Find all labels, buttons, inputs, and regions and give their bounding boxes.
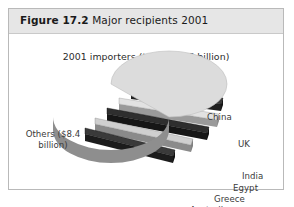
page-title: Figure 17.2 Major recipients 2001 [20,14,208,26]
pie-label-australia: Australia [190,205,228,207]
pie-chart-svg [9,34,283,189]
pie-label-others-line1: Others ($8.4 [26,129,81,139]
figure-panel: Figure 17.2 Major recipients 2001 2001 i… [0,0,294,207]
figure-frame: Figure 17.2 Major recipients 2001 2001 i… [8,8,284,190]
pie-label-china: China [207,112,232,122]
pie-label-india: India [242,171,263,181]
figure-number: Figure 17.2 [20,14,89,26]
pie-label-greece: Greece [214,194,245,204]
pie-label-egypt: Egypt [233,183,258,193]
figure-caption: Major recipients 2001 [92,14,208,26]
pie-label-others: Others ($8.4 billion) [15,129,91,151]
pie-chart: Others ($8.4 billion) China UK India Egy… [9,34,283,189]
figure-title-band: Figure 17.2 Major recipients 2001 [9,9,283,34]
pie-label-uk: UK [238,139,250,149]
pie-label-others-line2: billion) [38,140,67,150]
